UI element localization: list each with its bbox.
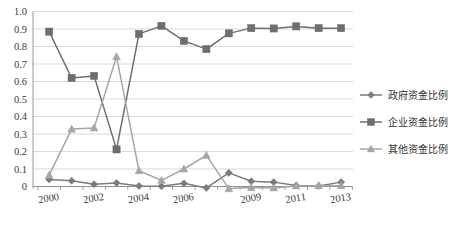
legend-label: 企业资金比例: [388, 116, 448, 128]
y-axis-tick-label: 0.2: [14, 146, 27, 157]
data-point-square: [315, 25, 322, 32]
plot-area: 1.00.90.80.70.60.50.40.30.20.10 20002002…: [0, 0, 464, 226]
legend-item-1[interactable]: 政府资金比例: [360, 89, 448, 101]
x-axis-tick-label: 2006: [172, 191, 194, 205]
data-series-group: [45, 22, 345, 191]
y-axis-tick-labels: 1.00.90.80.70.60.50.40.30.20.10: [14, 6, 28, 192]
y-axis-tick-label: 0.1: [14, 164, 27, 175]
x-axis-tick-labels: 2000200220042006200920112013: [37, 191, 351, 205]
y-axis-tick-label: 0.5: [14, 94, 27, 105]
data-point-square: [293, 23, 300, 30]
x-axis-tick-label: 2013: [329, 191, 351, 205]
legend-label: 其他资金比例: [388, 143, 448, 155]
y-axis-tick-label: 0.6: [14, 76, 27, 87]
data-point-square: [203, 46, 210, 53]
chart-container: 1.00.90.80.70.60.50.40.30.20.10 20002002…: [0, 0, 464, 226]
y-axis-tick-label: 0.4: [14, 111, 28, 122]
y-axis-tick-label: 0: [22, 181, 27, 192]
x-axis-tick-label: 2011: [285, 191, 307, 205]
x-axis-tick-label: 2009: [239, 191, 261, 205]
data-point-triangle: [180, 165, 188, 172]
data-point-triangle: [45, 171, 53, 178]
data-point-square: [225, 30, 232, 37]
data-point-diamond: [113, 179, 120, 186]
data-point-triangle: [113, 53, 121, 60]
data-point-diamond: [68, 177, 75, 184]
chart-svg: 1.00.90.80.70.60.50.40.30.20.10 20002002…: [0, 0, 464, 226]
y-axis-tick-label: 0.7: [14, 59, 27, 70]
data-point-square: [337, 25, 344, 32]
x-axis-tick-label: 2000: [37, 191, 59, 205]
gridlines-group: [33, 12, 353, 187]
data-point-square: [180, 37, 187, 44]
data-point-square: [248, 25, 255, 32]
y-axis-tick-label: 0.3: [14, 129, 27, 140]
y-axis-tick-label: 0.8: [14, 41, 27, 52]
data-point-square: [46, 28, 53, 35]
chart-legend: 政府资金比例企业资金比例其他资金比例: [360, 89, 448, 155]
data-point-square: [135, 30, 142, 37]
data-point-diamond: [180, 180, 187, 187]
data-point-diamond: [135, 182, 142, 189]
legend-label: 政府资金比例: [388, 89, 448, 101]
data-point-diamond: [368, 92, 375, 99]
data-point-square: [368, 119, 375, 126]
series-2: [46, 22, 345, 153]
data-point-triangle: [135, 167, 143, 174]
y-axis-tick-label: 1.0: [14, 6, 27, 17]
x-axis-tick-label: 2002: [82, 191, 104, 205]
y-axis-tick-label: 0.9: [14, 24, 27, 35]
data-point-triangle: [202, 151, 210, 158]
legend-item-2[interactable]: 企业资金比例: [360, 116, 448, 128]
data-point-square: [68, 74, 75, 81]
data-point-square: [90, 72, 97, 79]
axis-lines: [33, 12, 353, 189]
x-axis-tick-label: 2004: [127, 191, 150, 205]
data-point-square: [158, 22, 165, 29]
data-point-square: [270, 25, 277, 32]
data-point-square: [113, 146, 120, 153]
legend-item-3[interactable]: 其他资金比例: [360, 143, 448, 155]
x-axis-tickmarks: [38, 187, 352, 191]
